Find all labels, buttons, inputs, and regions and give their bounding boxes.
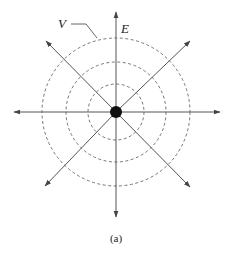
label-e: E: [120, 21, 129, 36]
field-diagram: V E (a): [0, 0, 232, 258]
v-leader-line: [71, 24, 97, 38]
field-line-up-right: [116, 41, 190, 112]
point-charge: [110, 106, 122, 118]
field-line-down-left: [45, 112, 116, 186]
caption: (a): [110, 232, 123, 245]
field-line-up-left: [46, 41, 116, 112]
label-v: V: [58, 16, 68, 31]
